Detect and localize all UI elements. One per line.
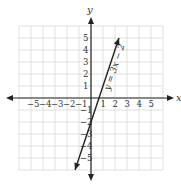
- svg-text:2: 2: [83, 69, 88, 79]
- svg-text:−4: −4: [39, 99, 52, 109]
- y-axis-label: y: [86, 4, 93, 15]
- svg-text:−2: −2: [63, 99, 76, 109]
- x-axis-label: x: [176, 92, 181, 103]
- svg-text:3: 3: [125, 99, 130, 109]
- svg-text:−1: −1: [80, 105, 93, 115]
- svg-text:5: 5: [83, 33, 88, 43]
- svg-text:1: 1: [101, 99, 106, 109]
- svg-text:4: 4: [137, 99, 142, 109]
- svg-text:−5: −5: [27, 99, 40, 109]
- svg-text:2: 2: [113, 99, 118, 109]
- svg-text:−3: −3: [51, 99, 64, 109]
- svg-text:−5: −5: [80, 153, 93, 163]
- svg-text:3: 3: [83, 57, 88, 67]
- svg-text:5: 5: [149, 99, 154, 109]
- svg-text:1: 1: [83, 81, 88, 91]
- svg-text:4: 4: [83, 45, 88, 55]
- coordinate-plane: x y −5−4−3−2−112345 54321−1−2−3−4−5 y = …: [0, 0, 181, 190]
